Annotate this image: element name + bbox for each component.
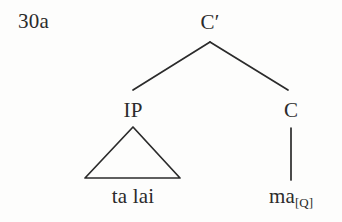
branch-cbar-to-ip — [133, 42, 210, 90]
tree-terminal-ta-lai: ta lai — [112, 186, 155, 207]
syntax-tree-figure: 30a C′ IP C ta lai ma[Q] — [0, 0, 342, 222]
terminal-ta-lai-text: ta lai — [112, 184, 155, 208]
terminal-ma-subscript: [Q] — [295, 195, 313, 210]
terminal-ma-text: ma — [269, 184, 295, 208]
tree-node-ip: IP — [123, 100, 142, 121]
tree-node-cbar: C′ — [200, 12, 219, 33]
ip-triangle-icon — [85, 127, 180, 178]
branch-cbar-to-c — [210, 42, 288, 90]
tree-node-c: C — [284, 100, 298, 121]
tree-terminal-ma: ma[Q] — [269, 186, 313, 207]
